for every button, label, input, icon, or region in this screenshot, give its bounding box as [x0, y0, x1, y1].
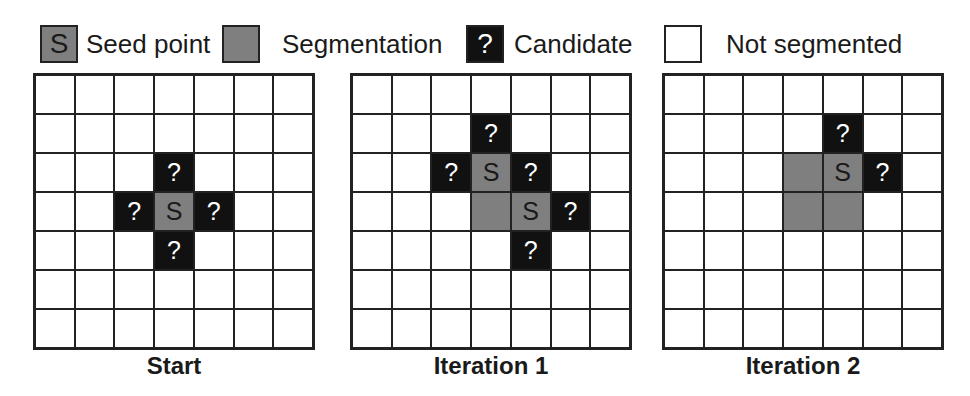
panel-iteration-2: ?S? Iteration 2: [662, 73, 944, 380]
empty-cell: [194, 153, 234, 192]
empty-cell: [551, 75, 591, 114]
candidate-cell: ?: [431, 153, 471, 192]
empty-cell: [823, 75, 863, 114]
empty-cell: [664, 231, 704, 270]
segmented-cell: [471, 192, 511, 231]
panel-caption: Iteration 1: [350, 352, 632, 380]
empty-cell: [194, 270, 234, 309]
seed-cell: S: [471, 153, 511, 192]
empty-cell: [863, 270, 903, 309]
empty-cell: [863, 75, 903, 114]
empty-cell: [590, 75, 630, 114]
empty-cell: [194, 309, 234, 348]
empty-cell: [352, 309, 392, 348]
empty-cell: [743, 114, 783, 153]
legend-seed-label: Seed point: [86, 28, 210, 60]
empty-cell: [75, 192, 115, 231]
seed-cell: S: [154, 192, 194, 231]
empty-cell: [551, 270, 591, 309]
candidate-cell: ?: [863, 153, 903, 192]
empty-cell: [154, 270, 194, 309]
panel-iteration-1: ??S?S?? Iteration 1: [350, 73, 632, 380]
empty-cell: [664, 75, 704, 114]
empty-cell: [783, 75, 823, 114]
empty-cell: [392, 153, 432, 192]
empty-cell: [902, 270, 942, 309]
empty-cell: [154, 75, 194, 114]
empty-cell: [234, 270, 274, 309]
empty-cell: [743, 309, 783, 348]
panel-caption: Start: [33, 352, 315, 380]
empty-cell: [902, 75, 942, 114]
empty-cell: [743, 192, 783, 231]
candidate-cell: ?: [154, 153, 194, 192]
empty-cell: [823, 270, 863, 309]
empty-cell: [273, 192, 313, 231]
empty-cell: [273, 270, 313, 309]
empty-cell: [783, 309, 823, 348]
empty-cell: [511, 75, 551, 114]
empty-cell: [863, 309, 903, 348]
empty-cell: [590, 114, 630, 153]
empty-cell: [35, 153, 75, 192]
candidate-cell: ?: [114, 192, 154, 231]
empty-cell: [664, 192, 704, 231]
empty-cell: [273, 309, 313, 348]
empty-cell: [273, 231, 313, 270]
empty-cell: [35, 192, 75, 231]
candidate-cell: ?: [551, 192, 591, 231]
empty-cell: [590, 153, 630, 192]
empty-cell: [590, 231, 630, 270]
empty-cell: [743, 75, 783, 114]
pixel-grid: ??S?S??: [350, 73, 632, 350]
empty-cell: [431, 231, 471, 270]
seed-cell: S: [511, 192, 551, 231]
segmented-cell: [783, 153, 823, 192]
empty-cell: [902, 192, 942, 231]
empty-cell: [743, 153, 783, 192]
empty-cell: [743, 270, 783, 309]
empty-cell: [590, 270, 630, 309]
empty-cell: [664, 114, 704, 153]
empty-cell: [392, 192, 432, 231]
empty-cell: [590, 309, 630, 348]
empty-cell: [902, 153, 942, 192]
empty-cell: [511, 270, 551, 309]
empty-cell: [431, 114, 471, 153]
empty-cell: [194, 75, 234, 114]
empty-cell: [154, 114, 194, 153]
empty-cell: [863, 231, 903, 270]
empty-cell: [551, 114, 591, 153]
empty-cell: [352, 192, 392, 231]
empty-cell: [590, 192, 630, 231]
empty-cell: [35, 114, 75, 153]
segmented-cell: [823, 192, 863, 231]
seed-cell: S: [823, 153, 863, 192]
legend: S Seed point Segmentation ? Candidate No…: [0, 25, 970, 67]
empty-cell: [902, 114, 942, 153]
empty-cell: [704, 309, 744, 348]
empty-cell: [743, 231, 783, 270]
empty-cell: [471, 270, 511, 309]
empty-cell: [823, 309, 863, 348]
empty-cell: [392, 114, 432, 153]
empty-cell: [863, 192, 903, 231]
empty-cell: [352, 114, 392, 153]
empty-cell: [704, 114, 744, 153]
empty-cell: [783, 114, 823, 153]
empty-cell: [114, 231, 154, 270]
pixel-grid: ??S??: [33, 73, 315, 350]
empty-cell: [352, 270, 392, 309]
empty-cell: [902, 231, 942, 270]
empty-cell: [471, 309, 511, 348]
empty-cell: [704, 153, 744, 192]
empty-cell: [35, 231, 75, 270]
empty-cell: [75, 231, 115, 270]
empty-cell: [35, 309, 75, 348]
empty-cell: [902, 309, 942, 348]
candidate-cell: ?: [154, 231, 194, 270]
empty-cell: [114, 270, 154, 309]
empty-cell: [114, 114, 154, 153]
empty-cell: [114, 153, 154, 192]
empty-cell: [75, 309, 115, 348]
